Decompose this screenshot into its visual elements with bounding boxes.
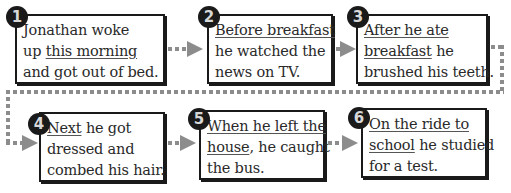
step-phrase: for a test. (369, 158, 438, 174)
step-number-badge-4: 4 (28, 113, 50, 135)
step-line: house, he caught (207, 137, 323, 158)
step-phrase: brushed his teeth. (364, 64, 494, 80)
connector-dots-wrap (6, 90, 504, 94)
step-phrase: Jonathan woke (23, 22, 129, 38)
step-line: and got out of bed. (23, 62, 163, 83)
step-text-5: When he left thehouse, he caughtthe bus. (207, 116, 323, 179)
step-line: school he studied (369, 135, 485, 156)
step-text-1: Jonathan wokeup this morningand got out … (23, 20, 163, 83)
step-number-badge-6: 6 (348, 107, 370, 129)
step-box-1: Jonathan wokeup this morningand got out … (15, 14, 165, 84)
step-phrase: news on TV. (215, 64, 300, 80)
step-line: news on TV. (215, 62, 331, 83)
step-phrase: he studied (415, 137, 494, 153)
step-line: When he left the (207, 116, 323, 137)
connector-dots-3-down (500, 45, 504, 93)
step-line: Next he got (47, 118, 163, 139)
step-line: he watched the (215, 41, 331, 62)
step-number-badge-2: 2 (198, 6, 220, 28)
time-phrase: breakfast (364, 43, 432, 59)
step-line: breakfast he (364, 41, 486, 62)
step-line: up this morning (23, 41, 163, 62)
step-phrase: combed his hair. (47, 162, 165, 178)
step-line: Before breakfast (215, 20, 331, 41)
step-phrase: the bus. (207, 160, 264, 176)
arrow-right-icon (342, 135, 358, 151)
step-number-badge-5: 5 (188, 108, 210, 130)
time-phrase: Before breakfast (215, 22, 335, 38)
step-phrase: , he caught (249, 139, 329, 155)
step-line: brushed his teeth. (364, 62, 486, 83)
step-box-3: After he atebreakfast hebrushed his teet… (356, 14, 488, 84)
step-phrase: and got out of bed. (23, 64, 159, 80)
arrow-right-icon (187, 41, 203, 57)
time-phrase: Next (47, 120, 81, 136)
step-number-badge-3: 3 (347, 6, 369, 28)
step-text-2: Before breakfasthe watched thenews on TV… (215, 20, 331, 83)
connector-dots-4-down (6, 90, 10, 143)
step-number-badge-1: 1 (6, 6, 28, 28)
step-box-2: Before breakfasthe watched thenews on TV… (207, 14, 333, 84)
step-text-3: After he atebreakfast hebrushed his teet… (364, 20, 486, 83)
step-phrase: up (23, 43, 46, 59)
step-phrase: he watched the (215, 43, 325, 59)
arrow-right-icon (340, 41, 356, 57)
connector-dots-4-in (6, 141, 22, 145)
step-box-4: Next he gotdressed andcombed his hair. (39, 112, 165, 182)
step-line: for a test. (369, 156, 485, 177)
step-line: dressed and (47, 139, 163, 160)
step-phrase: he (432, 43, 454, 59)
step-line: Jonathan woke (23, 20, 163, 41)
connector-dots-4-5 (168, 141, 180, 145)
arrow-right-icon (22, 135, 38, 151)
step-phrase: dressed and (47, 141, 134, 157)
step-line: After he ate (364, 20, 486, 41)
step-box-6: On the ride toschool he studiedfor a tes… (361, 108, 487, 178)
step-line: combed his hair. (47, 160, 163, 181)
step-box-5: When he left thehouse, he caughtthe bus. (199, 110, 325, 180)
step-line: the bus. (207, 158, 323, 179)
arrow-right-icon (180, 135, 196, 151)
time-phrase: this morning (46, 43, 137, 59)
step-text-4: Next he gotdressed andcombed his hair. (47, 118, 163, 181)
time-phrase: house (207, 139, 249, 155)
time-phrase: When he left the (207, 118, 326, 134)
connector-dots-1-2 (168, 47, 188, 51)
time-phrase: On the ride to (369, 116, 469, 132)
step-phrase: he got (81, 120, 131, 136)
step-line: On the ride to (369, 114, 485, 135)
step-text-6: On the ride toschool he studiedfor a tes… (369, 114, 485, 177)
time-phrase: After he ate (364, 22, 449, 38)
time-phrase: school (369, 137, 415, 153)
connector-dots-5-6 (328, 141, 342, 145)
